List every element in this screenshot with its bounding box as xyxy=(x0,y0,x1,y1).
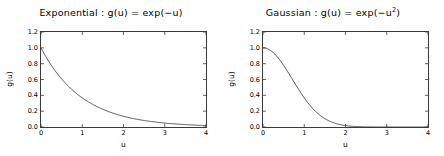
y-tick-label: 0.4 xyxy=(250,91,260,99)
y-axis-label-gaussian: g(u) xyxy=(227,71,236,86)
y-tick-label: 1.0 xyxy=(250,44,260,52)
y-axis-label-exponential: g(u) xyxy=(5,71,14,86)
x-tick-label: 2 xyxy=(121,129,125,137)
y-tick-label: 0.6 xyxy=(28,76,38,84)
plot-title-text: Exponential : g(u) = exp(−u) xyxy=(39,7,182,18)
y-tick-label: 0.8 xyxy=(28,60,38,68)
y-tick-label: 0.0 xyxy=(250,123,260,131)
x-tick-label: 4 xyxy=(426,129,430,137)
x-tick-label: 4 xyxy=(204,129,208,137)
plot-title-exponential: Exponential : g(u) = exp(−u) xyxy=(0,7,222,18)
y-tick-label: 0.6 xyxy=(250,76,260,84)
y-tick-label: 1.0 xyxy=(28,44,38,52)
y-tick-label: 1.2 xyxy=(250,28,260,36)
x-tick-label: 1 xyxy=(80,129,84,137)
y-tick-label: 0.4 xyxy=(28,91,38,99)
data-curve-gaussian xyxy=(263,48,428,127)
x-axis-label-gaussian: u xyxy=(262,140,429,149)
y-tick-label: 1.2 xyxy=(28,28,38,36)
plot-panel-gaussian: Gaussian : g(u) = exp(−u2) 1.21.00.80.60… xyxy=(222,0,444,156)
data-curve-exponential xyxy=(41,48,206,126)
x-tick-label: 3 xyxy=(385,129,389,137)
plot-title-gaussian: Gaussian : g(u) = exp(−u2) xyxy=(222,7,444,18)
tick-marks-gaussian xyxy=(263,32,428,127)
x-tick-label: 0 xyxy=(261,129,265,137)
y-tick-label: 0.0 xyxy=(28,123,38,131)
tick-marks-exponential xyxy=(41,32,206,127)
plot-area-exponential xyxy=(41,32,206,127)
figure-canvas: Exponential : g(u) = exp(−u) 1.21.00.80.… xyxy=(0,0,444,156)
axes-exponential: 1.21.00.80.60.40.20.0 01234 xyxy=(40,31,207,128)
y-tick-label: 0.2 xyxy=(250,107,260,115)
x-axis-label-exponential: u xyxy=(40,140,207,149)
plot-title-text: Gaussian : g(u) = exp(−u xyxy=(266,7,392,18)
plot-area-gaussian xyxy=(263,32,428,127)
x-tick-label: 0 xyxy=(39,129,43,137)
axes-gaussian: 1.21.00.80.60.40.20.0 01234 xyxy=(262,31,429,128)
x-tick-label: 2 xyxy=(343,129,347,137)
y-tick-label: 0.8 xyxy=(250,60,260,68)
plot-panel-exponential: Exponential : g(u) = exp(−u) 1.21.00.80.… xyxy=(0,0,222,156)
y-tick-label: 0.2 xyxy=(28,107,38,115)
x-tick-label: 3 xyxy=(163,129,167,137)
x-tick-label: 1 xyxy=(302,129,306,137)
plot-title-text-end: ) xyxy=(396,7,400,18)
